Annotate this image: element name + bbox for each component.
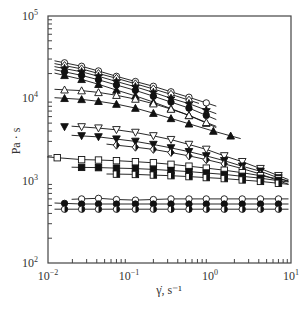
data-point [113,165,119,171]
data-point [78,164,84,170]
data-point [168,161,174,167]
data-point [221,175,227,181]
data-point [203,112,209,118]
data-point [186,173,192,179]
data-point [132,171,138,177]
data-point [54,155,60,161]
data-point [150,206,156,212]
data-point [203,174,209,180]
data-point [113,157,119,163]
data-point [186,105,192,111]
data-point [168,206,174,212]
data-point [78,206,84,212]
data-point [150,160,156,166]
data-point [113,171,119,177]
viscosity-chart: 10−210−1100101102103104105 γ̇, s⁻¹ Pa · … [0,0,308,315]
data-point [239,177,245,183]
data-point [132,206,138,212]
data-point [78,156,84,162]
data-point [132,158,138,164]
data-point [61,206,67,212]
data-point [95,164,101,170]
data-point [150,172,156,178]
data-point [168,172,174,178]
data-point [275,206,281,212]
data-point [275,180,281,186]
data-point [95,157,101,163]
y-axis-title: Pa · s [9,127,23,154]
data-point [186,206,192,212]
data-point [95,206,101,212]
data-point [113,206,119,212]
data-point [221,206,227,212]
x-axis-title: γ̇, s⁻¹ [155,283,182,297]
data-point [257,206,263,212]
data-point [203,206,209,212]
data-point [239,206,245,212]
data-point [257,178,263,184]
